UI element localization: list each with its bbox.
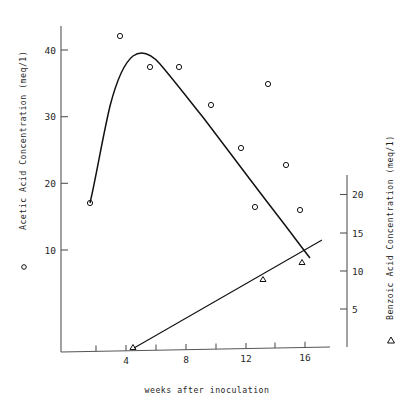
x-tick-label-8: 8 [183, 354, 189, 365]
x-tick-label-16: 16 [299, 352, 311, 363]
benzoic-acid-fit-line [134, 240, 322, 348]
x-axis-title: weeks after inoculation [145, 385, 270, 395]
right-axis-group: 20 15 10 5 Benzoic Acid Concentration (m… [340, 135, 395, 347]
acetic-acid-fit-curve [90, 53, 310, 258]
right-tick-label-15: 15 [352, 228, 363, 239]
right-tick-label-20: 20 [352, 189, 364, 200]
x-axis-line [61, 347, 330, 352]
acetic-acid-points [87, 33, 302, 212]
x-tick-label-4: 4 [123, 355, 129, 366]
left-axis-ticks [61, 50, 68, 250]
left-tick-label-30: 30 [45, 111, 57, 122]
x-axis-group: 4 8 12 16 weeks after inoculation [61, 342, 330, 395]
data-point [176, 64, 181, 69]
data-point [265, 81, 270, 86]
legend-circle-icon [22, 265, 27, 270]
data-point [117, 33, 122, 38]
data-point [299, 260, 305, 265]
benzoic-acid-points [130, 260, 305, 350]
right-axis-ticks [340, 195, 347, 310]
left-axis-title: Acetic Acid Concentration (meq/1) [18, 51, 28, 230]
left-tick-label-20: 20 [45, 178, 57, 189]
acid-concentration-plot: 40 30 20 10 Acetic Acid Concentration (m… [0, 0, 415, 414]
right-tick-label-5: 5 [352, 304, 358, 315]
data-point [283, 162, 288, 167]
data-point [147, 64, 152, 69]
chart-container: 40 30 20 10 Acetic Acid Concentration (m… [0, 0, 415, 414]
left-tick-label-40: 40 [45, 45, 57, 56]
left-tick-label-10: 10 [45, 245, 57, 256]
legend-triangle-icon [388, 337, 395, 343]
right-axis-title: Benzoic Acid Concentration (meq/1) [385, 135, 395, 320]
data-point [260, 277, 266, 282]
x-tick-label-12: 12 [240, 353, 251, 364]
data-point [208, 102, 213, 107]
data-point [252, 204, 257, 209]
left-axis-group: 40 30 20 10 Acetic Acid Concentration (m… [18, 26, 68, 352]
data-point [297, 207, 302, 212]
data-point [238, 145, 243, 150]
right-tick-label-10: 10 [352, 266, 364, 277]
